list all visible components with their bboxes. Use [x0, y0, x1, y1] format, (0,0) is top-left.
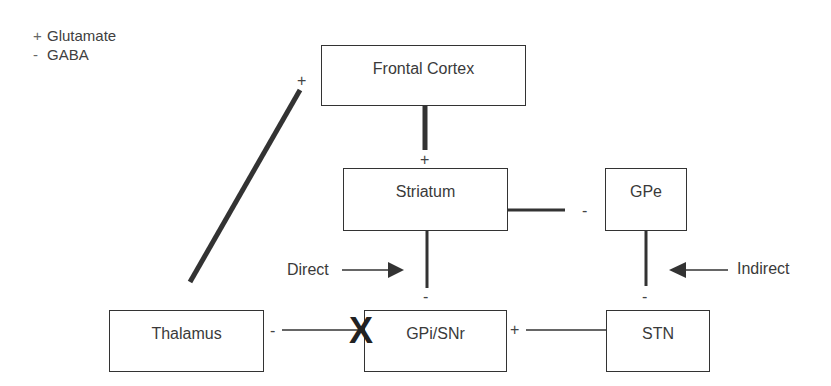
edge-thalamus-cortex: [190, 90, 300, 282]
node-label: STN: [607, 325, 709, 343]
node-thalamus: Thalamus: [109, 310, 264, 372]
node-frontal-cortex: Frontal Cortex: [321, 45, 526, 106]
sign-cortex-striatum: +: [420, 152, 429, 168]
sign-gpe-stn: -: [642, 289, 647, 305]
sign-thalamus-cortex: +: [297, 73, 306, 89]
label-direct: Direct: [287, 261, 329, 279]
blocked-x-marker: X: [349, 313, 373, 349]
node-label: Thalamus: [110, 325, 263, 343]
sign-gpi-thalamus: -: [270, 323, 275, 339]
sign-striatum-gpe: -: [582, 203, 587, 219]
sign-striatum-gpi: -: [423, 289, 428, 305]
node-label: GPi/SNr: [365, 325, 506, 343]
node-gpi-snr: GPi/SNr: [364, 310, 507, 372]
node-label: GPe: [606, 183, 686, 201]
sign-stn-gpi: +: [510, 322, 519, 338]
node-label: Frontal Cortex: [322, 60, 525, 78]
indirect-arrow-head: [669, 262, 686, 278]
node-gpe: GPe: [605, 168, 687, 231]
label-indirect: Indirect: [737, 260, 789, 278]
node-striatum: Striatum: [343, 168, 508, 231]
node-label: Striatum: [344, 183, 507, 201]
node-stn: STN: [606, 310, 710, 372]
direct-arrow-head: [388, 262, 404, 278]
